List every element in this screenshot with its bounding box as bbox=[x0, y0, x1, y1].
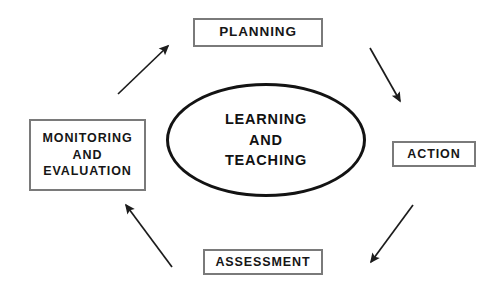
diagram-canvas: PLANNING ACTION ASSESSMENT MONITORING AN… bbox=[0, 0, 504, 300]
node-assessment-label: ASSESSMENT bbox=[215, 254, 310, 271]
node-monitoring-label-line1: MONITORING bbox=[42, 130, 132, 147]
arrow-action-to-assessment bbox=[371, 205, 413, 262]
node-action[interactable]: ACTION bbox=[392, 141, 476, 167]
arrow-assessment-to-monitoring bbox=[126, 205, 172, 267]
center-node-learning-and-teaching[interactable]: LEARNING AND TEACHING bbox=[166, 83, 366, 197]
arrow-planning-to-action bbox=[370, 48, 400, 101]
node-monitoring-label-line3: EVALUATION bbox=[43, 163, 131, 180]
node-monitoring-label-line2: AND bbox=[73, 147, 103, 164]
node-planning-label: PLANNING bbox=[219, 23, 297, 41]
center-label-line2: AND bbox=[249, 130, 283, 151]
arrow-monitoring-to-planning bbox=[118, 46, 168, 94]
node-assessment[interactable]: ASSESSMENT bbox=[203, 249, 323, 275]
center-label-line3: TEACHING bbox=[225, 150, 307, 171]
node-monitoring-and-evaluation[interactable]: MONITORING AND EVALUATION bbox=[29, 119, 146, 191]
node-planning[interactable]: PLANNING bbox=[193, 18, 323, 47]
center-label-line1: LEARNING bbox=[225, 109, 307, 130]
node-action-label: ACTION bbox=[407, 146, 460, 163]
